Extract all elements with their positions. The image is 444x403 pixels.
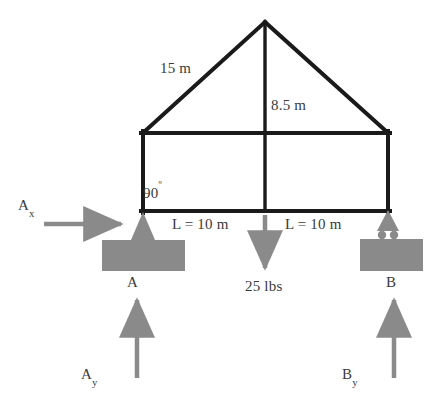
reaction-ax-subscript: x [29, 207, 35, 219]
label-span-left: L = 10 m [172, 217, 229, 232]
member-roof-right-rafter [265, 22, 388, 133]
support-a-base-block [102, 240, 185, 271]
support-a-pin-triangle [131, 212, 155, 240]
structure-members [141, 22, 390, 213]
label-span-right: L = 10 m [285, 217, 342, 232]
reaction-ax-base: A [18, 197, 29, 213]
support-b [360, 210, 423, 271]
reaction-ay-subscript: y [92, 376, 98, 388]
label-reaction-ay: Ay [81, 367, 98, 382]
support-b-pin-triangle [377, 210, 399, 231]
member-roof-left-rafter [143, 22, 265, 133]
force-arrows [44, 215, 394, 378]
label-reaction-by: By [342, 367, 358, 382]
reaction-ay-base: A [81, 366, 92, 382]
label-support-b: B [386, 275, 396, 290]
label-center-post-length: 8.5 m [271, 98, 306, 113]
support-b-roller-left [378, 231, 386, 239]
label-support-a: A [127, 275, 138, 290]
reaction-by-subscript: y [352, 376, 358, 388]
label-right-angle: 90º [143, 186, 162, 201]
label-reaction-ax: Ax [18, 198, 35, 213]
free-body-diagram: 15 m 8.5 m 90º Ax L = 10 m L = 10 m 25 l… [0, 0, 444, 403]
label-roof-left-length: 15 m [160, 61, 191, 76]
diagram-canvas [0, 0, 444, 403]
support-b-roller-right [390, 231, 398, 239]
support-b-base-block [360, 239, 423, 271]
degree-symbol-icon: º [158, 179, 161, 190]
label-applied-load: 25 lbs [245, 279, 282, 294]
right-angle-value: 90 [143, 185, 158, 201]
reaction-by-base: B [342, 366, 352, 382]
